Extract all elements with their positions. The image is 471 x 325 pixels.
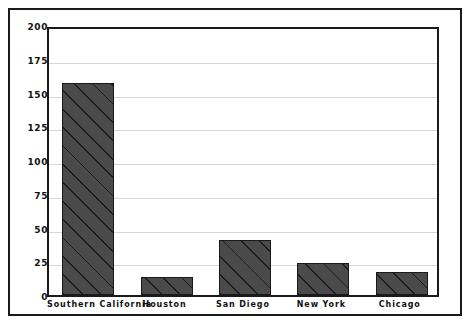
y-axis-tick-label: 25 [18,259,48,268]
x-axis-tick-labels: Southern CaliforniaHoustonSan DiegoNew Y… [47,299,439,315]
y-axis-tick-label: 0 [18,293,48,302]
x-axis-tick-label: San Diego [204,299,282,311]
plot-area [47,27,439,297]
bar-slot [127,29,205,295]
bar-slot [49,29,127,295]
bar[interactable] [62,83,114,295]
bar[interactable] [376,272,428,295]
y-axis-tick-label: 150 [18,90,48,99]
y-axis-tick-label: 125 [18,124,48,133]
chart-frame: 0255075100125150175200 Southern Californ… [8,8,462,316]
y-axis-tick-label: 200 [18,23,48,32]
bar-series [49,29,437,295]
y-axis-tick-label: 50 [18,225,48,234]
bar-slot [206,29,284,295]
bar[interactable] [219,240,271,295]
y-axis-tick-label: 175 [18,56,48,65]
bar[interactable] [297,263,349,295]
bar[interactable] [141,277,193,295]
bar-slot [363,29,441,295]
bar-slot [284,29,362,295]
x-axis-tick-label: Southern California [47,299,125,311]
x-axis-tick-label: Chicago [361,299,439,311]
y-axis-tick-labels: 0255075100125150175200 [18,27,48,297]
y-axis-tick-label: 75 [18,191,48,200]
x-axis-tick-label: Houston [125,299,203,311]
x-axis-tick-label: New York [282,299,360,311]
y-axis-tick-label: 100 [18,158,48,167]
